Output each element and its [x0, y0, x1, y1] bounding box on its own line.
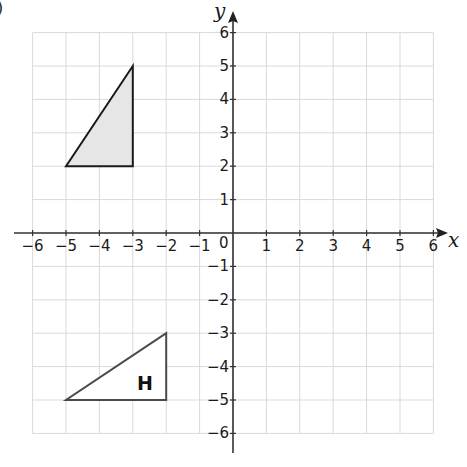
- y-tick-label: 6: [219, 25, 229, 40]
- y-tick-label: −3: [207, 326, 229, 341]
- x-tick-label: −6: [22, 239, 44, 254]
- y-tick-label: −6: [207, 426, 229, 441]
- x-tick-label: 5: [395, 239, 405, 254]
- x-tick-label: 1: [262, 239, 272, 254]
- x-tick-label: −2: [155, 239, 177, 254]
- x-tick-label: 6: [429, 239, 439, 254]
- x-tick-label: 4: [362, 239, 372, 254]
- y-axis: [228, 11, 238, 453]
- y-tick-label: −5: [207, 393, 229, 408]
- x-tick-label: −3: [122, 239, 144, 254]
- y-tick-label: 4: [219, 92, 229, 107]
- triangle-h-label: H: [137, 374, 153, 393]
- x-tick-label: −5: [55, 239, 77, 254]
- y-tick-label: −2: [207, 292, 229, 307]
- x-tick-label: −1: [189, 239, 211, 254]
- x-tick-label: −4: [88, 239, 110, 254]
- y-tick-label: 2: [219, 159, 229, 174]
- x-axis-label: x: [448, 230, 459, 250]
- x-tick-label: 3: [328, 239, 338, 254]
- x-tick-label: 2: [295, 239, 305, 254]
- origin-label: 0: [219, 236, 229, 251]
- y-tick-label: −1: [207, 259, 229, 274]
- grid-svg: [0, 0, 467, 467]
- y-axis-label: y: [214, 1, 225, 21]
- y-tick-label: 3: [219, 125, 229, 140]
- y-tick-label: 1: [219, 192, 229, 207]
- y-tick-label: 5: [219, 59, 229, 74]
- coordinate-grid-figure: ) −6−5−4−3−2−1123456 654321−1−2−3−4−5−6 …: [0, 0, 467, 467]
- x-axis: [14, 228, 448, 238]
- y-tick-label: −4: [207, 359, 229, 374]
